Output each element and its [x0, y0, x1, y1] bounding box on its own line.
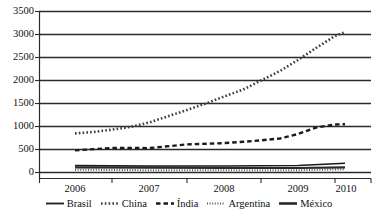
x-tick-label-2007: 2007 — [129, 183, 169, 194]
legend-label-brasil: Brasil — [67, 198, 92, 209]
x-tick-label-2008: 2008 — [204, 183, 244, 194]
line-solid-swatch — [46, 199, 64, 208]
line-dotted-swatch — [101, 199, 119, 208]
legend-label-china: China — [122, 198, 147, 209]
x-tick-label-2009: 2009 — [278, 183, 318, 194]
legend-label-india: Índia — [177, 198, 199, 209]
y-tick-label-3500: 3500 — [0, 5, 34, 16]
y-tick-label-3000: 3000 — [0, 28, 34, 39]
line-dashed-swatch — [156, 199, 174, 208]
x-tick-label-2006: 2006 — [55, 183, 95, 194]
series-line-mexico — [75, 167, 345, 168]
chart-legend: Brasil China Índia Argentina México — [0, 198, 378, 209]
y-tick-label-1500: 1500 — [0, 97, 34, 108]
legend-item-china[interactable]: China — [101, 198, 147, 209]
y-tick-label-0: 0 — [0, 166, 34, 177]
y-axis-ticks — [35, 12, 40, 173]
series-line-india — [75, 124, 345, 150]
legend-item-india[interactable]: Índia — [156, 198, 199, 209]
y-tick-label-2000: 2000 — [0, 74, 34, 85]
legend-item-brasil[interactable]: Brasil — [46, 198, 92, 209]
series-line-brasil — [75, 163, 345, 166]
x-tick-label-2010: 2010 — [326, 183, 366, 194]
series-line-china — [75, 32, 345, 133]
line-fine-dotted-swatch — [207, 199, 225, 208]
legend-label-mexico: México — [300, 198, 332, 209]
y-tick-label-500: 500 — [0, 143, 34, 154]
y-tick-label-1000: 1000 — [0, 120, 34, 131]
legend-item-mexico[interactable]: México — [279, 198, 332, 209]
line-solid-thick-swatch — [279, 199, 297, 208]
line-chart: 3500 3000 2500 2000 1500 1000 500 0 2006… — [0, 0, 378, 220]
gridlines — [39, 12, 371, 173]
y-tick-label-2500: 2500 — [0, 51, 34, 62]
legend-item-argentina[interactable]: Argentina — [207, 198, 270, 209]
legend-label-argentina: Argentina — [228, 198, 270, 209]
series-line-argentina — [75, 169, 345, 170]
